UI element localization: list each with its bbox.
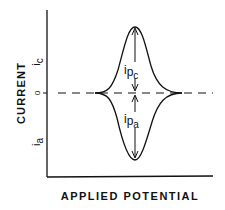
tick-zero-label: 0	[33, 90, 42, 95]
x-axis	[47, 176, 213, 177]
x-axis-label: APPLIED POTENTIAL	[61, 190, 200, 202]
tick-cathodic-label: ic	[30, 58, 45, 65]
cathodic-peak-curve	[95, 27, 182, 93]
tick-anodic-label: ia	[30, 138, 45, 146]
voltammogram-diagram: ipc ipa CURRENT ic 0 ia APPLIED POTENTIA…	[0, 0, 225, 210]
y-axis-label: CURRENT	[15, 62, 27, 124]
